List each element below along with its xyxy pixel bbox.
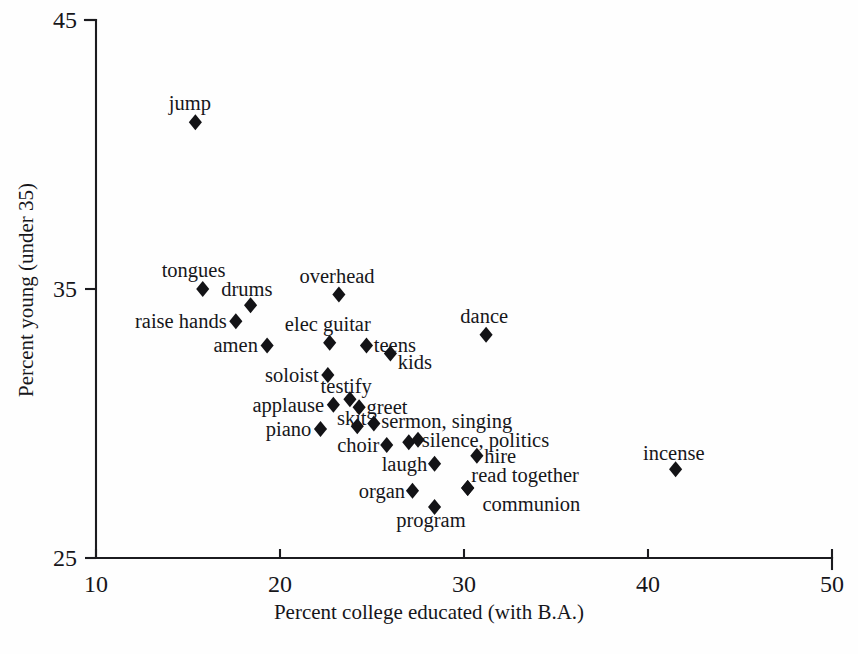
data-marker-amen xyxy=(261,337,274,353)
point-label-jump: jump xyxy=(169,93,211,114)
point-label-read-together: read together xyxy=(471,464,579,485)
y-tick-label: 45 xyxy=(53,8,77,32)
data-marker-teens xyxy=(360,337,373,353)
data-marker-dance xyxy=(480,327,493,343)
data-marker-raise-hands xyxy=(229,313,242,329)
x-tick-label: 10 xyxy=(84,572,108,596)
y-tick-label: 35 xyxy=(53,277,77,301)
data-marker-jump xyxy=(189,114,202,130)
y-axis-title: Percent young (under 35) xyxy=(14,183,39,397)
data-marker-piano xyxy=(314,421,327,437)
x-axis-title: Percent college educated (with B.A.) xyxy=(274,600,584,625)
point-label-raise-hands: raise hands xyxy=(135,311,227,332)
data-marker-elec-guitar xyxy=(323,335,336,351)
point-label-organ: organ xyxy=(359,481,405,502)
scatter-plot-figure: 1020304050253545 jumptonguesdrumsraise h… xyxy=(0,0,858,654)
point-label-drums: drums xyxy=(221,279,272,300)
point-label-applause: applause xyxy=(252,394,324,415)
point-label-choir: choir xyxy=(337,435,379,456)
y-tick-label: 25 xyxy=(53,546,77,570)
point-label-laugh: laugh xyxy=(382,454,428,475)
x-tick-label: 20 xyxy=(268,572,292,596)
point-label-overhead: overhead xyxy=(299,265,374,286)
x-tick-label: 50 xyxy=(820,572,844,596)
data-markers xyxy=(189,114,682,515)
data-marker-overhead xyxy=(332,286,345,302)
data-marker-tongues xyxy=(196,281,209,297)
point-label-piano: piano xyxy=(266,419,312,440)
point-label-elec-guitar: elec guitar xyxy=(285,314,371,335)
data-marker-laugh xyxy=(428,456,441,472)
point-label-testify: testify xyxy=(321,376,372,397)
point-label-skit: skit xyxy=(337,408,367,429)
point-label-communion: communion xyxy=(482,494,580,515)
point-label-dance: dance xyxy=(460,306,508,327)
data-marker-organ xyxy=(406,483,419,499)
point-label-program: program xyxy=(396,510,465,531)
data-marker-silence-politics xyxy=(402,434,415,450)
point-label-tongues: tongues xyxy=(162,260,226,281)
point-label-amen: amen xyxy=(214,335,258,356)
point-label-kids: kids xyxy=(398,351,432,372)
x-tick-label: 40 xyxy=(636,572,660,596)
x-tick-label: 30 xyxy=(452,572,476,596)
point-label-soloist: soloist xyxy=(265,365,319,386)
data-marker-choir xyxy=(380,437,393,453)
point-label-incense: incense xyxy=(643,443,704,464)
plot-canvas xyxy=(0,0,858,654)
